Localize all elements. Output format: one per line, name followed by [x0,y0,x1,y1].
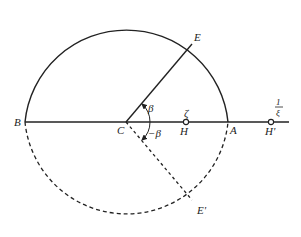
label-minus-beta: −β [148,127,161,139]
label-beta: β [147,102,154,114]
radius-ce [126,44,192,122]
label-zeta: ζ [184,107,190,120]
upper-semicircle [25,30,228,122]
point-h [183,119,188,124]
point-h-prime [268,119,273,124]
label-a: A [229,124,237,136]
label-e: E [193,31,201,43]
label-one-over-xi-numerator: 1 [276,97,281,107]
label-b: B [14,116,21,128]
lower-semicircle-dashed [25,122,228,214]
circle-diagram: B C A E E' H H' ζ β −β 1 ξ [0,0,301,237]
label-h: H [179,125,189,137]
label-one-over-xi-denominator: ξ [276,108,280,118]
label-h-prime: H' [264,125,276,137]
label-e-prime: E' [196,204,207,216]
label-c: C [117,124,125,136]
